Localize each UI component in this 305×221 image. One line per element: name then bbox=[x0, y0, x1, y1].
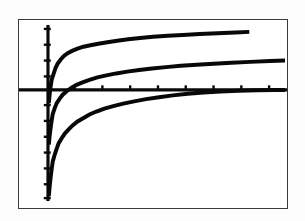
curve-lower bbox=[49, 90, 285, 196]
axes-group bbox=[19, 25, 287, 201]
plot-frame bbox=[18, 19, 288, 209]
plot-canvas bbox=[19, 20, 287, 208]
curve-middle bbox=[49, 61, 285, 145]
screenshot-root bbox=[0, 0, 305, 221]
curves-group bbox=[49, 32, 285, 196]
